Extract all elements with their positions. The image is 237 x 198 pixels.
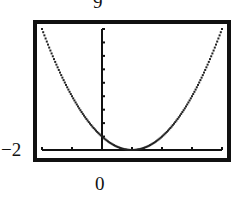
graph-screen — [0, 0, 237, 198]
screen-frame — [35, 22, 229, 160]
parabola-curve — [41, 28, 223, 151]
